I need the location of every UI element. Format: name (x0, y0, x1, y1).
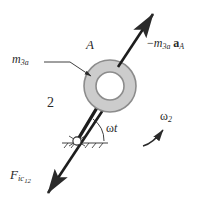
omega-glyph-2: ω (160, 109, 168, 123)
label-angle-omega-t: ωt (106, 122, 117, 134)
mass-subscript-left: 3a (21, 58, 29, 67)
annular-mass-body (84, 60, 136, 112)
label-link-number: 2 (47, 96, 54, 110)
force-subscript: ic12 (18, 173, 31, 183)
label-mass: m3a (12, 53, 29, 67)
minus-sign: − (147, 36, 154, 50)
mass-subscript: 3a (162, 42, 170, 51)
time-variable: t (114, 121, 117, 135)
label-angular-velocity-omega-2: ω2 (160, 110, 172, 124)
mass-leader-line (44, 62, 91, 76)
label-inertia-force-bottom: Fic12 (10, 168, 31, 185)
omega2-curved-arrow (143, 130, 163, 146)
omega-subscript-2: 2 (168, 115, 172, 124)
inertia-force-vector-bottom (48, 110, 103, 193)
label-inertia-force-top: −m3a aA (147, 37, 184, 51)
omega-glyph: ω (106, 121, 114, 135)
label-point-a: A (86, 38, 94, 51)
acceleration-subscript: A (179, 42, 184, 51)
force-symbol: F (10, 167, 18, 182)
mass-symbol-left: m (12, 52, 21, 66)
force-sub-subscript: 12 (24, 177, 31, 184)
inertia-force-diagram: A −m3a aA m3a 2 ωt ω2 Fic12 (0, 0, 205, 206)
